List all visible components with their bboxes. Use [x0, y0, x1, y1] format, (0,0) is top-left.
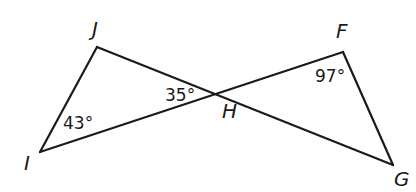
vertex-label-I: I: [24, 151, 30, 175]
triangle-diagram: J I H F G 43° 35° 97°: [0, 0, 416, 192]
vertex-label-H: H: [222, 99, 237, 123]
vertex-label-J: J: [88, 17, 98, 41]
vertex-label-F: F: [336, 19, 348, 43]
angle-label-F: 97°: [315, 66, 345, 86]
angle-label-H: 35°: [165, 85, 195, 105]
angle-label-I: 43°: [63, 113, 93, 133]
vertex-label-G: G: [394, 167, 410, 191]
